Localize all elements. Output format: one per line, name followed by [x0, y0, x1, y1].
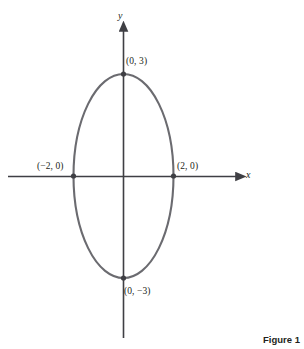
vertex-point-top	[121, 71, 126, 76]
point-label-right: (2, 0)	[177, 162, 198, 172]
y-axis-label: y	[118, 11, 122, 21]
point-label-left: (−2, 0)	[37, 162, 64, 172]
figure-container: y x (0, 3) (2, 0) (0, −3) (−2, 0) Figure…	[0, 0, 304, 349]
point-label-bottom: (0, −3)	[124, 287, 151, 297]
x-axis-label: x	[246, 170, 250, 180]
vertex-point-bottom	[121, 275, 126, 280]
point-label-top: (0, 3)	[126, 57, 147, 67]
figure-caption: Figure 1	[263, 335, 300, 345]
ellipse-plot	[0, 0, 304, 349]
vertex-point-left	[71, 173, 76, 178]
vertex-point-right	[171, 173, 176, 178]
